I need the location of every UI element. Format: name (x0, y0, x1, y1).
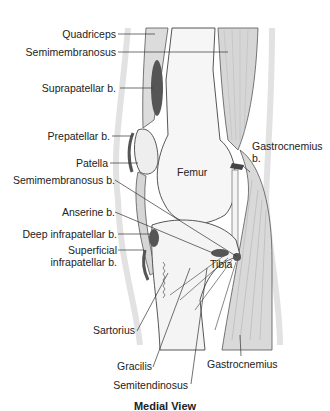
semimembranosus-muscle (218, 28, 258, 150)
label-gracilis: Gracilis (117, 360, 152, 372)
label-anserine-bursa: Anserine b. (62, 206, 115, 218)
label-semimembranosus-bursa: Semimembranosus b. (13, 174, 115, 186)
label-quadriceps: Quadriceps (62, 28, 116, 40)
label-deep-infrapatellar-bursa: Deep infrapatellar b. (22, 228, 117, 240)
label-gastrocnemius: Gastrocnemius (207, 358, 278, 370)
label-patella: Patella (76, 157, 108, 169)
knee-anatomy-illustration (0, 0, 330, 411)
label-semimembranosus: Semimembranosus (26, 46, 116, 58)
label-prepatellar-bursa: Prepatellar b. (48, 130, 110, 142)
label-suprapatellar-bursa: Suprapatellar b. (42, 82, 116, 94)
semimembranosus-bursa (233, 253, 241, 261)
label-tibia: Tibia (210, 258, 232, 270)
label-superficial-infrapatellar-2: infrapatellar b. (50, 256, 117, 268)
deep-infrapatellar-bursa (149, 229, 159, 247)
patella-bone (134, 129, 158, 174)
label-gastrocnemius-bursa-1: Gastrocnemius (252, 140, 323, 152)
prepatellar-bursa (129, 133, 133, 172)
diagram-title: Medial View (0, 400, 330, 411)
label-semitendinosus: Semitendinosus (113, 379, 188, 391)
label-superficial-infrapatellar-1: Superficial (68, 244, 117, 256)
label-sartorius: Sartorius (93, 324, 135, 336)
label-gastrocnemius-bursa-2: b. (252, 152, 261, 164)
label-femur: Femur (177, 166, 207, 178)
